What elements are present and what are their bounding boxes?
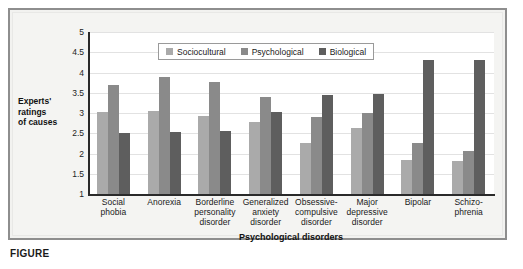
y-axis-tick-label: 2 xyxy=(54,149,84,159)
bar xyxy=(108,85,119,194)
x-axis-tick-label-line: disorder xyxy=(291,217,342,227)
x-axis-tick-label: Schizo-phrenia xyxy=(443,197,494,217)
x-axis-tick-label-line: Obsessive- xyxy=(291,197,342,207)
bar xyxy=(412,143,423,194)
x-axis-tick-label-line: Anorexia xyxy=(139,197,190,207)
x-axis-tick-label: Obsessive-compulsivedisorder xyxy=(291,197,342,227)
y-axis-tick-label: 1 xyxy=(54,189,84,199)
x-axis-tick-label-line: depressive xyxy=(342,207,393,217)
bar xyxy=(311,117,322,194)
x-axis-tick-label: Anorexia xyxy=(139,197,190,207)
bar xyxy=(198,116,209,194)
legend-label: Psychological xyxy=(252,47,304,57)
x-axis-tick-label-line: disorder xyxy=(240,217,291,227)
bar xyxy=(249,122,260,194)
x-axis-tick-label-line: disorder xyxy=(190,217,241,227)
x-axis-tick-label: Borderlinepersonalitydisorder xyxy=(190,197,241,227)
x-axis-line xyxy=(88,194,495,196)
bar xyxy=(300,143,311,194)
bar xyxy=(271,112,282,194)
figure-panel: Experts' ratings of causes 54.543.532.52… xyxy=(8,8,507,240)
x-axis-tick-label-line: personality xyxy=(190,207,241,217)
x-axis-tick-label: Bipolar xyxy=(393,197,444,207)
legend-swatch-icon xyxy=(241,48,248,55)
bar xyxy=(452,161,463,194)
bar xyxy=(401,160,412,194)
legend-item: Sociocultural xyxy=(166,47,226,57)
bar xyxy=(159,77,170,194)
bar xyxy=(423,60,434,194)
x-axis-tick-label-line: Borderline xyxy=(190,197,241,207)
x-axis-tick-label-line: compulsive xyxy=(291,207,342,217)
y-axis-tick-labels: 54.543.532.521.51 xyxy=(50,32,84,194)
bar xyxy=(148,111,159,194)
legend-swatch-icon xyxy=(166,48,173,55)
bar xyxy=(474,60,485,194)
x-axis-tick-label: Majordepressivedisorder xyxy=(342,197,393,227)
x-axis-tick-label-line: Generalized xyxy=(240,197,291,207)
bar-group xyxy=(88,32,139,194)
bar xyxy=(260,97,271,194)
y-axis-tick-label: 5 xyxy=(54,27,84,37)
x-axis-tick-label-line: Schizo- xyxy=(443,197,494,207)
y-axis-tick-label: 4 xyxy=(54,68,84,78)
y-axis-tick-label: 3.5 xyxy=(54,88,84,98)
legend-label: Sociocultural xyxy=(177,47,226,57)
bar xyxy=(220,131,231,194)
bar xyxy=(209,82,220,194)
x-axis-tick-label-line: Major xyxy=(342,197,393,207)
legend-label: Biological xyxy=(330,47,366,57)
x-axis-tick-label-line: phrenia xyxy=(443,207,494,217)
legend-item: Psychological xyxy=(241,47,304,57)
bar xyxy=(351,128,362,194)
x-axis-tick-label-line: Bipolar xyxy=(393,197,444,207)
bar xyxy=(463,151,474,194)
y-axis-tick-label: 3 xyxy=(54,108,84,118)
x-axis-tick-label-line: anxiety xyxy=(240,207,291,217)
legend-swatch-icon xyxy=(319,48,326,55)
bar-group xyxy=(393,32,444,194)
x-axis-tick-label: Generalizedanxietydisorder xyxy=(240,197,291,227)
x-axis-title: Psychological disorders xyxy=(88,232,494,242)
y-axis-tick-label: 2.5 xyxy=(54,128,84,138)
bar xyxy=(170,132,181,194)
bar xyxy=(119,133,130,194)
y-axis-tick-label: 4.5 xyxy=(54,47,84,57)
bar xyxy=(322,95,333,194)
bar-group xyxy=(443,32,494,194)
x-axis-tick-labels: SocialphobiaAnorexiaBorderlinepersonalit… xyxy=(88,197,494,233)
bar xyxy=(362,113,373,194)
bar xyxy=(97,112,108,194)
x-axis-tick-label-line: disorder xyxy=(342,217,393,227)
legend-item: Biological xyxy=(319,47,366,57)
chart-legend: SocioculturalPsychologicalBiological xyxy=(158,43,374,60)
y-axis-tick-label: 1.5 xyxy=(54,169,84,179)
x-axis-tick-label-line: phobia xyxy=(88,207,139,217)
x-axis-tick-label: Socialphobia xyxy=(88,197,139,217)
figure-caption: FIGURE xyxy=(10,248,50,259)
x-axis-tick-label-line: Social xyxy=(88,197,139,207)
bar xyxy=(373,94,384,194)
